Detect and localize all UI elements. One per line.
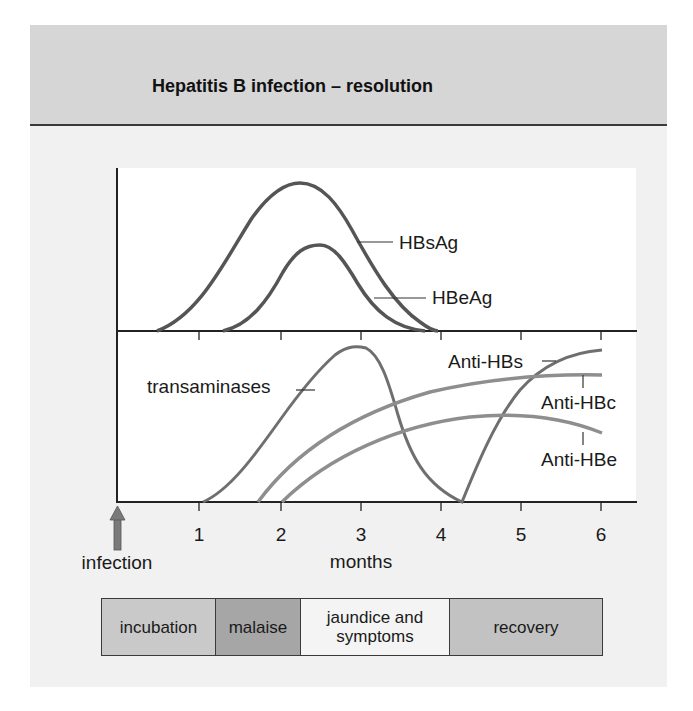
- phase-jaundice-label-line1: jaundice and: [327, 608, 423, 627]
- phase-malaise: malaise: [216, 599, 301, 655]
- phase-recovery: recovery: [450, 599, 602, 655]
- hbeag-label: HBeAg: [432, 287, 492, 308]
- phase-incubation: incubation: [102, 599, 216, 655]
- tick-label-1: 1: [194, 524, 205, 545]
- tick-label-2: 2: [276, 524, 287, 545]
- anti-hbc-label: Anti-HBc: [541, 392, 616, 413]
- tick-label-4: 4: [436, 524, 447, 545]
- tick-label-6: 6: [596, 524, 607, 545]
- phase-malaise-label: malaise: [229, 618, 288, 637]
- tick-label-3: 3: [356, 524, 367, 545]
- phase-incubation-label: incubation: [120, 618, 198, 637]
- x-axis-label: months: [330, 551, 392, 572]
- tick-label-5: 5: [516, 524, 527, 545]
- infection-arrow-icon: [110, 506, 125, 550]
- infection-label: infection: [82, 552, 153, 573]
- hbsag-label: HBsAg: [399, 232, 458, 253]
- transaminases-label: transaminases: [147, 376, 271, 397]
- phase-bar: incubation malaise jaundice and symptoms…: [101, 598, 603, 656]
- anti-hbs-label: Anti-HBs: [448, 351, 523, 372]
- x-axis-ticks: [199, 502, 601, 511]
- anti-hbe-label: Anti-HBe: [541, 449, 617, 470]
- phase-jaundice-label-line2: symptoms: [336, 627, 413, 646]
- x-tick-labels: 1 2 3 4 5 6: [194, 524, 607, 545]
- phase-recovery-label: recovery: [493, 618, 558, 637]
- phase-jaundice: jaundice and symptoms: [301, 599, 450, 655]
